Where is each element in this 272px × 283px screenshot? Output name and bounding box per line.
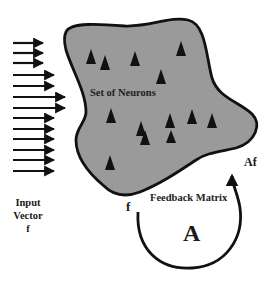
neural-network-feedback-diagram: Set of Neurons Input Vector f Feedback M… <box>0 0 272 283</box>
input-label-line: Vector <box>10 209 46 222</box>
diagram-canvas <box>0 0 272 283</box>
input-vector-label: Input Vector f <box>10 196 46 235</box>
feedback-matrix-label: Feedback Matrix <box>150 192 227 203</box>
neuron-set-label: Set of Neurons <box>90 87 156 98</box>
input-label-line: Input <box>10 196 46 209</box>
feedback-output-symbol: Af <box>244 155 257 170</box>
neuron-set-blob <box>65 19 257 195</box>
matrix-symbol: A <box>183 220 200 247</box>
feedback-input-symbol: f <box>126 199 130 215</box>
input-label-line: f <box>10 222 46 235</box>
input-arrows <box>13 43 65 171</box>
